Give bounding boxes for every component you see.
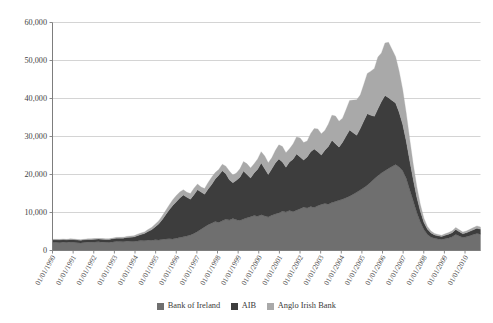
legend-color-swatch [267, 303, 274, 310]
y-axis-labels-group: 010,00020,00030,00040,00050,00060,000 [24, 18, 52, 255]
legend-item[interactable]: Anglo Irish Bank [267, 302, 336, 310]
y-tick-label: 30,000 [24, 132, 47, 141]
y-tick-label: 0 [43, 246, 47, 255]
y-tick-label: 50,000 [24, 56, 47, 65]
x-axis-labels-group: 01/01/199001/01/199101/01/199201/01/1993… [33, 253, 470, 287]
legend-item[interactable]: AIB [231, 302, 256, 310]
legend-label: Bank of Ireland [168, 302, 221, 310]
legend-label: AIB [242, 302, 256, 310]
chart-container: 010,00020,00030,00040,00050,00060,000 01… [0, 0, 493, 323]
plot-area: 010,00020,00030,00040,00050,00060,000 01… [0, 0, 493, 295]
stacked-area-chart: 010,00020,00030,00040,00050,00060,000 01… [0, 0, 493, 295]
legend-color-swatch [157, 303, 164, 310]
chart-legend: Bank of IrelandAIBAnglo Irish Bank [0, 296, 493, 316]
legend-color-swatch [231, 303, 238, 310]
series-areas-group [53, 42, 481, 250]
x-tick-label: 01/01/2010 [446, 253, 471, 287]
legend-label: Anglo Irish Bank [278, 302, 336, 310]
y-tick-label: 10,000 [24, 208, 47, 217]
y-tick-label: 40,000 [24, 94, 47, 103]
y-tick-label: 20,000 [24, 170, 47, 179]
y-tick-label: 60,000 [24, 18, 47, 27]
legend-item[interactable]: Bank of Ireland [157, 302, 220, 310]
x-tick-marks-group [53, 251, 466, 254]
